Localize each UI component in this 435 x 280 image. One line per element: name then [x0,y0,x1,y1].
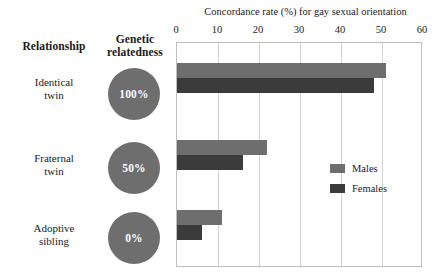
relationship-label-adoptive-sibling: Adoptive sibling [6,222,102,247]
x-tick-label-20: 20 [253,24,264,35]
bar-fraternal-twin-males [177,140,267,155]
column-header-genetic-line2: relatedness [107,46,163,58]
chart-legend: Males Females [330,163,387,203]
relatedness-value: 0% [125,232,143,244]
x-axis-tick-labels: 0102030405060 [176,24,422,38]
bar-fraternal-twin-females [177,155,243,170]
column-header-genetic-line1: Genetic [116,33,154,45]
column-header-genetic-relatedness: Genetic relatedness [104,33,166,59]
relationship-label-line1: Adoptive [34,222,75,234]
legend-swatch-males-icon [330,164,345,173]
x-tick-label-30: 30 [294,24,305,35]
legend-item-females: Females [330,183,387,194]
x-tick-label-50: 50 [376,24,387,35]
column-header-relationship: Relationship [6,40,102,53]
legend-swatch-females-icon [330,184,345,193]
relatedness-circle-adoptive-sibling: 0% [108,212,160,264]
relationship-label-line1: Identical [35,76,73,88]
bar-identical-twin-females [177,78,374,93]
chart-figure: Relationship Genetic relatedness Identic… [0,0,435,280]
x-tick-label-40: 40 [335,24,346,35]
bar-adoptive-sibling-males [177,210,222,225]
legend-label-females: Females [352,183,387,194]
bar-adoptive-sibling-females [177,225,202,240]
legend-item-males: Males [330,163,387,174]
x-tick-label-60: 60 [417,24,428,35]
x-tick-label-0: 0 [173,24,178,35]
relationship-label-line2: sibling [39,235,69,247]
relatedness-circle-identical-twin: 100% [108,68,160,120]
relatedness-value: 100% [119,88,149,100]
relatedness-circle-fraternal-twin: 50% [108,142,160,194]
bar-identical-twin-males [177,63,386,78]
relatedness-value: 50% [122,162,146,174]
relationship-label-fraternal-twin: Fraternal twin [6,152,102,177]
x-tick-label-10: 10 [212,24,223,35]
relationship-label-line2: twin [44,89,64,101]
chart-title: Concordance rate (%) for gay sexual orie… [176,6,435,17]
legend-label-males: Males [352,163,378,174]
relationship-label-line2: twin [44,165,64,177]
plot-area [176,42,422,267]
relationship-label-line1: Fraternal [34,152,74,164]
relationship-label-identical-twin: Identical twin [6,76,102,101]
